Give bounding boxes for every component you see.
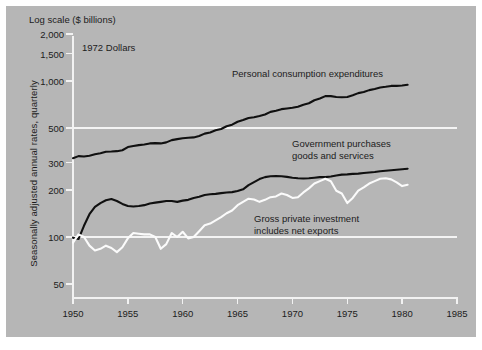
series-label-gross-private-investment: Gross private investmentincludes net exp… — [254, 213, 359, 237]
series-layer — [0, 0, 482, 350]
figure-root: Log scale ($ billions) 1972 Dollars Seas… — [0, 0, 482, 350]
series-label-government-purchases: Government purchasesgoods and services — [292, 138, 391, 162]
series-label-personal-consumption: Personal consumption expenditures — [232, 68, 383, 80]
